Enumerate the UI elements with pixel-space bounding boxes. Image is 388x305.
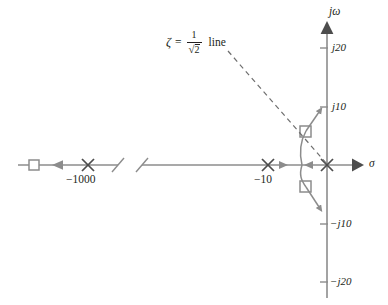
fraction-numerator: 1	[190, 30, 199, 41]
tick-label-minus-j10: −j10	[330, 218, 351, 229]
tick-label-j10: j10	[332, 101, 346, 112]
tick-label-minus-j20: −j20	[330, 276, 351, 287]
damping-ratio-annotation: ζ = 1 √2 line	[166, 30, 226, 55]
damping-ratio-dashed-line	[228, 51, 327, 164]
sigma-axis-arrowhead	[352, 159, 364, 172]
fraction-denominator: √2	[187, 44, 202, 56]
equals-sign: =	[174, 37, 183, 49]
arrow-left-toward-infinity	[52, 160, 63, 170]
tick-label-j20: j20	[332, 42, 346, 53]
locus-upper-arrow	[306, 112, 319, 131]
j-omega-axis-arrowhead	[321, 21, 334, 34]
root-locus-figure: jω σ j20 j10 −j10 −j20 −1000 −10 ζ = 1 √…	[0, 0, 388, 305]
pole-label-minus-1000: −1000	[66, 174, 96, 186]
j-omega-axis-label: jω	[329, 6, 340, 18]
arrow-left-from-origin	[304, 161, 313, 169]
sigma-axis-label: σ	[369, 158, 375, 170]
zeta-symbol: ζ	[166, 36, 171, 49]
pole-label-minus-10: −10	[254, 174, 272, 186]
annotation-word-line: line	[209, 37, 226, 49]
one-over-root-two-fraction: 1 √2	[187, 30, 202, 55]
radicand: 2	[195, 44, 200, 55]
arrow-right-from-minus-ten	[279, 161, 288, 169]
locus-lower-arrow	[306, 187, 319, 207]
root-marker-far-left	[29, 160, 39, 170]
